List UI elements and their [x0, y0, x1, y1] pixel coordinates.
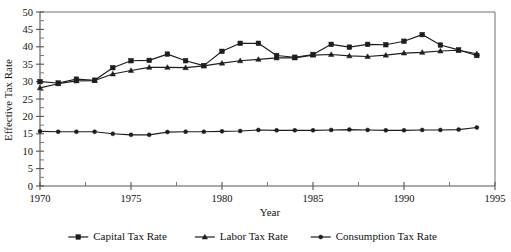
- capital-tax-rate-point: [111, 65, 116, 70]
- capital-tax-rate-point: [384, 42, 389, 47]
- capital-tax-rate-point: [365, 42, 370, 47]
- consumption-tax-rate-point: [438, 128, 442, 132]
- y-tick-label: 25: [23, 94, 34, 105]
- capital-tax-rate-point: [402, 39, 407, 44]
- legend-label: Consumption Tax Rate: [336, 230, 437, 242]
- y-axis-ticks: [36, 12, 44, 186]
- plot-background: [40, 12, 495, 186]
- capital-tax-rate-point: [165, 52, 170, 57]
- consumption-tax-rate-point: [202, 130, 206, 134]
- legend-marker-point: [76, 235, 81, 240]
- x-tick-label: 1985: [303, 193, 324, 204]
- consumption-tax-rate-point: [384, 128, 388, 132]
- x-tick-label: 1975: [121, 193, 142, 204]
- capital-tax-rate-point: [420, 32, 425, 37]
- consumption-tax-rate-point: [457, 128, 461, 132]
- consumption-tax-rate-point: [93, 130, 97, 134]
- tax-rate-line-chart: 05101520253035404550 1970197519801985199…: [0, 0, 511, 252]
- y-tick-label: 35: [23, 59, 34, 70]
- capital-tax-rate-point: [256, 41, 261, 46]
- capital-tax-rate-point: [147, 58, 152, 63]
- y-tick-label: 30: [23, 76, 34, 87]
- consumption-tax-rate-point: [366, 128, 370, 132]
- y-tick-label: 20: [23, 111, 34, 122]
- capital-tax-rate-point: [183, 58, 188, 63]
- consumption-tax-rate-point: [275, 128, 279, 132]
- capital-tax-rate-point: [220, 49, 225, 54]
- chart-legend: Capital Tax RateLabor Tax RateConsumptio…: [68, 230, 437, 242]
- x-tick-label: 1995: [485, 193, 506, 204]
- consumption-tax-rate-point: [238, 129, 242, 133]
- capital-tax-rate-point: [347, 45, 352, 50]
- x-axis-tick-labels: 197019751980198519901995: [30, 193, 506, 204]
- capital-tax-rate-point: [129, 58, 134, 63]
- consumption-tax-rate-point: [184, 130, 188, 134]
- y-tick-label: 15: [23, 128, 34, 139]
- capital-tax-rate-point: [438, 43, 443, 48]
- y-axis-title: Effective Tax Rate: [2, 59, 14, 141]
- consumption-tax-rate-point: [147, 133, 151, 137]
- legend-item-capital-tax-rate[interactable]: Capital Tax Rate: [68, 230, 167, 242]
- y-tick-label: 50: [23, 7, 34, 18]
- consumption-tax-rate-point: [293, 128, 297, 132]
- y-tick-label: 5: [28, 163, 33, 174]
- capital-tax-rate-point: [38, 79, 43, 84]
- legend-marker-point: [319, 235, 323, 239]
- x-tick-label: 1990: [394, 193, 415, 204]
- x-axis-title: Year: [260, 206, 281, 218]
- legend-label: Labor Tax Rate: [220, 230, 288, 242]
- legend-label: Capital Tax Rate: [93, 230, 167, 242]
- y-tick-label: 45: [23, 24, 34, 35]
- capital-tax-rate-point: [238, 41, 243, 46]
- chart-container: 05101520253035404550 1970197519801985199…: [0, 0, 511, 252]
- y-axis-tick-labels: 05101520253035404550: [23, 7, 34, 192]
- consumption-tax-rate-point: [111, 132, 115, 136]
- capital-tax-rate-point: [329, 42, 334, 47]
- y-tick-label: 40: [23, 41, 34, 52]
- consumption-tax-rate-point: [402, 128, 406, 132]
- consumption-tax-rate-point: [420, 128, 424, 132]
- x-tick-label: 1980: [212, 193, 233, 204]
- legend-item-consumption-tax-rate[interactable]: Consumption Tax Rate: [311, 230, 437, 242]
- legend-item-labor-tax-rate[interactable]: Labor Tax Rate: [195, 230, 288, 242]
- y-tick-label: 0: [28, 181, 33, 192]
- consumption-tax-rate-point: [220, 129, 224, 133]
- y-tick-label: 10: [23, 146, 34, 157]
- consumption-tax-rate-point: [129, 133, 133, 137]
- consumption-tax-rate-point: [165, 130, 169, 134]
- plot-frame: [40, 12, 495, 186]
- consumption-tax-rate-point: [74, 130, 78, 134]
- consumption-tax-rate-point: [56, 130, 60, 134]
- consumption-tax-rate-point: [311, 128, 315, 132]
- consumption-tax-rate-point: [475, 126, 479, 130]
- consumption-tax-rate-point: [38, 129, 42, 133]
- x-tick-label: 1970: [30, 193, 51, 204]
- consumption-tax-rate-point: [329, 128, 333, 132]
- consumption-tax-rate-point: [256, 128, 260, 132]
- consumption-tax-rate-point: [347, 128, 351, 132]
